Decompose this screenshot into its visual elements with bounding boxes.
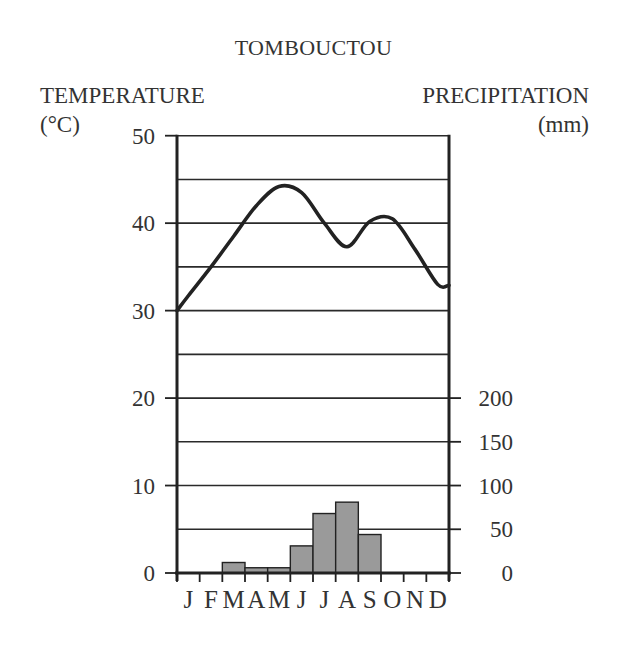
month-label: J: [297, 586, 307, 613]
month-label: F: [204, 586, 218, 613]
month-label: S: [363, 586, 377, 613]
precipitation-bar: [313, 514, 336, 573]
precipitation-bars: [222, 502, 381, 573]
temperature-tick-label: 30: [132, 299, 155, 324]
gridlines: [177, 136, 449, 530]
precipitation-bar: [290, 546, 313, 573]
month-label: J: [183, 586, 193, 613]
month-label: J: [319, 586, 329, 613]
month-label: M: [223, 586, 245, 613]
precipitation-bar: [358, 535, 381, 573]
month-label: N: [406, 586, 424, 613]
temperature-tick-label: 50: [132, 124, 155, 149]
month-label: M: [268, 586, 290, 613]
month-label: A: [247, 586, 265, 613]
precipitation-tick-label: 0: [502, 561, 514, 586]
month-label: A: [338, 586, 356, 613]
temperature-curve: [177, 186, 449, 311]
precipitation-tick-label: 200: [479, 386, 514, 411]
month-label: D: [429, 586, 447, 613]
precipitation-bar: [222, 563, 245, 573]
climograph-plot: 01020304050050100150200JFMAMJJASOND: [0, 0, 627, 652]
temperature-line: [177, 186, 449, 311]
temperature-tick-label: 0: [144, 561, 156, 586]
precipitation-tick-label: 100: [479, 474, 514, 499]
temperature-tick-label: 40: [132, 211, 155, 236]
precipitation-tick-label: 50: [490, 517, 513, 542]
month-label: O: [383, 586, 401, 613]
precipitation-tick-label: 150: [479, 430, 514, 455]
temperature-tick-label: 20: [132, 386, 155, 411]
precipitation-bar: [336, 502, 359, 573]
temperature-tick-label: 10: [132, 474, 155, 499]
